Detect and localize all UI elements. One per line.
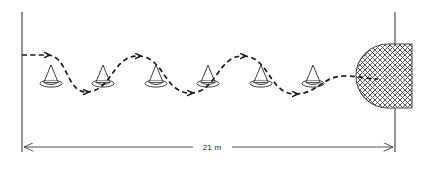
dimension-label: 21 m (203, 143, 222, 152)
path-segment-weave-4 (190, 56, 243, 93)
cone-3 (145, 65, 167, 87)
dimension-line-group: 21 m (24, 143, 393, 152)
cone-4 (197, 65, 219, 87)
path-segment-weave-3 (138, 56, 190, 93)
diagram-canvas: 21 m (0, 0, 427, 170)
slalom-path (22, 55, 378, 94)
cone-1 (40, 65, 62, 87)
slalom-course-diagram: 21 m (0, 0, 427, 170)
target-zone (356, 44, 412, 108)
target-zone-shape (356, 44, 412, 108)
cone-group (40, 65, 324, 87)
path-segment-weave-2 (86, 56, 138, 92)
path-segment-weave-5 (243, 56, 295, 94)
cone-2 (92, 65, 114, 87)
